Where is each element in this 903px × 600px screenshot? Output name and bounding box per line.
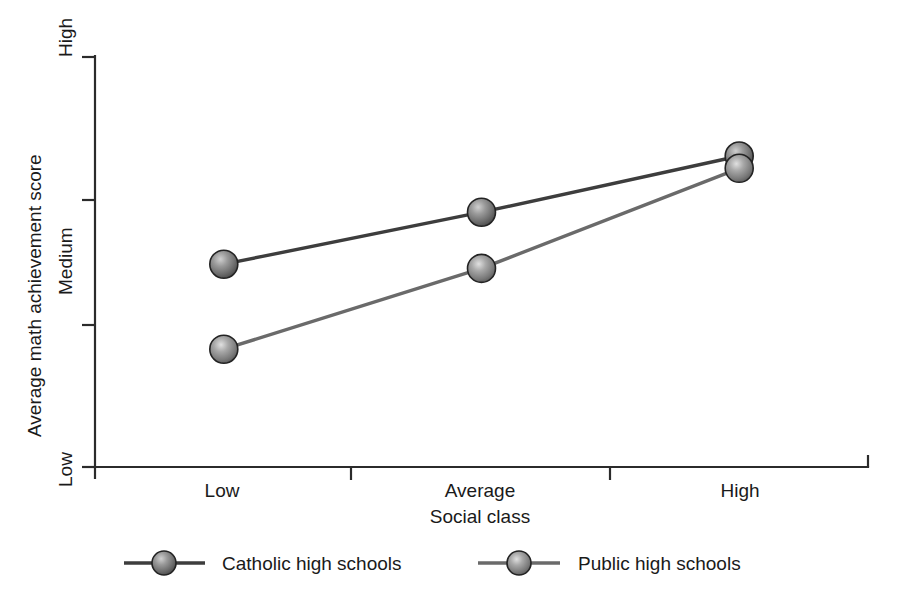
data-point-marker: Public high schools – Low xyxy=(210,335,238,363)
x-tick-label-high: High xyxy=(720,480,759,501)
chart-legend: Catholic high schools Public high school… xyxy=(124,551,741,575)
legend-marker-catholic xyxy=(152,551,176,575)
legend-label-catholic: Catholic high schools xyxy=(222,553,402,574)
x-tick-label-low: Low xyxy=(205,480,240,501)
y-tick-label-medium: Medium xyxy=(55,227,76,295)
y-tick-label-high: High xyxy=(55,18,76,57)
y-axis: High Medium Low Average math achievement… xyxy=(24,18,95,487)
x-axis-title: Social class xyxy=(430,506,530,527)
data-point-marker: Public high schools – High xyxy=(725,154,753,182)
data-point-marker: Catholic high schools – Low xyxy=(210,250,238,278)
data-point-marker: Public high schools – Average xyxy=(468,254,496,282)
series-public-markers: Public high schools – LowPublic high sch… xyxy=(210,154,753,363)
legend-marker-public xyxy=(507,551,531,575)
series-public-high-schools: Public high schools – LowPublic high sch… xyxy=(210,154,753,363)
chart-figure: High Medium Low Average math achievement… xyxy=(0,0,903,600)
legend-label-public: Public high schools xyxy=(578,553,741,574)
legend-item-public[interactable]: Public high schools xyxy=(478,551,741,575)
x-tick-label-average: Average xyxy=(445,480,515,501)
data-point-marker: Catholic high schools – Average xyxy=(468,198,496,226)
x-axis: Low Average High Social class xyxy=(95,455,868,527)
legend-item-catholic[interactable]: Catholic high schools xyxy=(124,551,402,575)
y-tick-label-low: Low xyxy=(55,452,76,487)
y-axis-title: Average math achievement score xyxy=(24,154,45,437)
line-chart-canvas: High Medium Low Average math achievement… xyxy=(0,0,903,600)
